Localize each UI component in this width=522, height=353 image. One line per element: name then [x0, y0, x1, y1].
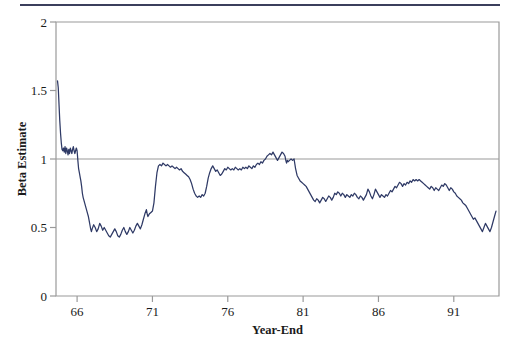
chart-svg: 00.511.52667176818691Year-EndBeta Estima… [0, 0, 522, 353]
x-tick-label-71: 71 [146, 304, 159, 319]
x-tick-label-86: 86 [372, 304, 386, 319]
top-rule-divider [20, 4, 500, 6]
y-axis-title: Beta Estimate [15, 121, 29, 196]
y-tick-label-0.5: 0.5 [31, 220, 47, 235]
y-tick-label-1.5: 1.5 [31, 83, 47, 98]
x-tick-label-76: 76 [221, 304, 235, 319]
x-tick-label-91: 91 [447, 304, 460, 319]
figure-container: 00.511.52667176818691Year-EndBeta Estima… [0, 0, 522, 353]
x-axis-title: Year-End [252, 323, 303, 337]
x-tick-label-81: 81 [297, 304, 310, 319]
y-tick-label-0: 0 [41, 289, 48, 304]
x-tick-label-66: 66 [71, 304, 85, 319]
y-tick-label-1: 1 [41, 152, 48, 167]
y-tick-label-2: 2 [41, 15, 48, 30]
